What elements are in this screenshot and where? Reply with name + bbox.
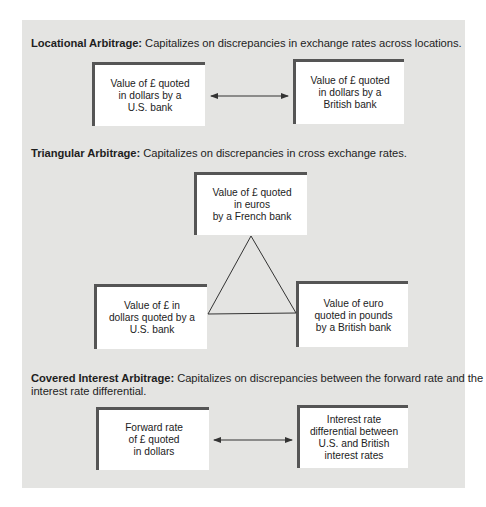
triangle-connector bbox=[208, 236, 296, 314]
connectors bbox=[0, 0, 486, 507]
